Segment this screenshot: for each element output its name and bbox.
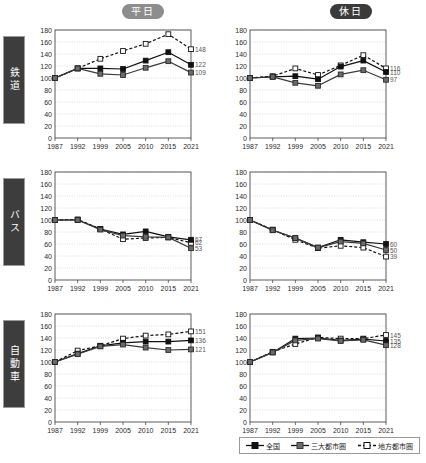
end-value-label: 39 — [390, 253, 398, 260]
x-tick-label: 2010 — [138, 285, 154, 292]
y-tick-label: 180 — [235, 27, 247, 34]
y-tick-label: 40 — [239, 395, 247, 402]
data-point-marker — [270, 228, 275, 233]
end-value-label: 116 — [390, 65, 401, 72]
y-tick-label: 0 — [243, 135, 247, 142]
data-point-marker — [98, 227, 103, 232]
data-point-marker — [143, 345, 148, 350]
x-tick-label: 2021 — [378, 143, 394, 150]
y-tick-label: 40 — [44, 395, 52, 402]
data-point-marker — [316, 77, 321, 82]
plot-frame — [250, 172, 386, 280]
data-point-marker — [248, 360, 253, 365]
x-tick-label: 1992 — [265, 427, 281, 434]
data-point-marker — [121, 49, 126, 54]
end-value-labels: 122109148 — [195, 46, 206, 76]
data-point-marker — [316, 245, 321, 250]
x-tick-label: 2010 — [333, 427, 349, 434]
data-point-marker — [361, 68, 366, 73]
plot-frame — [55, 172, 191, 280]
y-tick-label: 180 — [40, 311, 52, 318]
data-point-marker — [293, 74, 298, 79]
y-tick-label: 40 — [44, 111, 52, 118]
column-header-holiday: 休日 — [330, 4, 372, 19]
x-tick-label: 1999 — [93, 143, 109, 150]
data-point-marker — [361, 58, 366, 63]
data-point-marker — [143, 65, 148, 70]
y-tick-label: 60 — [239, 241, 247, 248]
data-point-marker — [121, 342, 126, 347]
x-tick-label: 2015 — [161, 285, 177, 292]
x-tick-label: 2021 — [183, 143, 199, 150]
data-point-marker — [166, 235, 171, 240]
data-point-marker — [338, 64, 343, 69]
y-tick-label: 180 — [40, 27, 52, 34]
y-tick-label: 120 — [40, 347, 52, 354]
y-tick-label: 20 — [239, 123, 247, 130]
y-tick-label: 100 — [235, 217, 247, 224]
y-tick-label: 80 — [239, 371, 247, 378]
end-value-labels: 605039 — [390, 241, 398, 261]
data-point-marker — [189, 246, 194, 251]
legend-marker-filled-square-black — [246, 441, 264, 450]
data-point-marker — [98, 71, 103, 76]
y-axis-gridlines: 020406080100120140160180 — [235, 169, 386, 284]
series-line — [250, 220, 386, 257]
data-point-marker — [143, 333, 148, 338]
data-point-marker — [166, 50, 171, 55]
y-tick-label: 100 — [40, 359, 52, 366]
data-point-marker — [384, 77, 389, 82]
data-point-marker — [270, 74, 275, 79]
x-tick-label: 1992 — [265, 143, 281, 150]
data-point-marker — [143, 58, 148, 63]
x-tick-label: 2021 — [183, 285, 199, 292]
data-point-marker — [361, 337, 366, 342]
legend: 全国 三大都市圏 地方都市圏 — [239, 437, 420, 454]
data-point-marker — [121, 233, 126, 238]
data-point-marker — [248, 76, 253, 81]
y-tick-label: 20 — [239, 407, 247, 414]
data-point-marker — [166, 59, 171, 64]
data-point-marker — [293, 338, 298, 343]
chart-car-weekday: 0204060801001201401601801987199219992005… — [32, 308, 222, 440]
y-tick-label: 160 — [40, 39, 52, 46]
chart-bus-weekday: 0204060801001201401601801987199219992005… — [32, 166, 222, 298]
data-point-marker — [166, 32, 171, 37]
plot-frame — [55, 30, 191, 138]
data-point-marker — [189, 70, 194, 75]
series-2 — [248, 53, 389, 81]
row-label-bus: バス — [3, 178, 25, 266]
y-tick-label: 160 — [40, 181, 52, 188]
data-point-marker — [166, 339, 171, 344]
y-tick-label: 20 — [44, 407, 52, 414]
y-tick-label: 160 — [235, 181, 247, 188]
end-value-label: 151 — [195, 328, 206, 335]
y-axis-gridlines: 020406080100120140160180 — [40, 27, 191, 142]
legend-label-three-major-metro: 三大都市圏 — [311, 441, 346, 451]
end-value-labels: 135128145 — [390, 332, 401, 349]
y-tick-label: 160 — [40, 323, 52, 330]
y-tick-label: 20 — [44, 265, 52, 272]
plot-area: 0204060801001201401601801987199219992005… — [32, 24, 222, 156]
y-tick-label: 60 — [44, 99, 52, 106]
y-tick-label: 40 — [44, 253, 52, 260]
y-tick-label: 80 — [44, 229, 52, 236]
data-point-marker — [293, 66, 298, 71]
plot-area: 0204060801001201401601801987199219992005… — [227, 166, 417, 298]
end-value-label: 62 — [195, 239, 203, 246]
x-tick-label: 2021 — [378, 427, 394, 434]
x-tick-label: 1987 — [242, 427, 258, 434]
x-axis-ticks: 1987199219992005201020152021 — [242, 280, 394, 292]
y-tick-label: 140 — [40, 335, 52, 342]
column-header-weekday: 平日 — [122, 4, 164, 19]
data-point-marker — [338, 339, 343, 344]
y-tick-label: 20 — [44, 123, 52, 130]
chart-rail-weekday: 0204060801001201401601801987199219992005… — [32, 24, 222, 156]
x-tick-label: 1999 — [288, 427, 304, 434]
data-point-marker — [75, 352, 80, 357]
x-axis-ticks: 1987199219992005201020152021 — [242, 422, 394, 434]
y-tick-label: 60 — [44, 241, 52, 248]
y-tick-label: 0 — [48, 277, 52, 284]
legend-item-national: 全国 — [246, 441, 280, 451]
x-tick-label: 1992 — [70, 143, 86, 150]
